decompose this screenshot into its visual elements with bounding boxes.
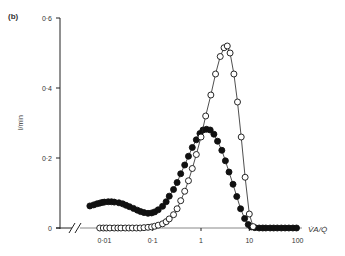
open-circle-marker (189, 166, 195, 172)
filled-circle-marker (226, 169, 232, 175)
filled-circle-marker (222, 158, 228, 164)
open-circle-marker (242, 174, 248, 180)
open-circle-marker (217, 54, 223, 60)
filled-circle-marker (163, 199, 169, 205)
open-circle-marker (250, 224, 256, 230)
filled-circle-marker (178, 171, 184, 177)
x-tick-label: 10 (245, 237, 253, 244)
open-circle-marker (208, 92, 214, 98)
filled-circle-marker (189, 145, 195, 151)
x-tick-label: 1 (199, 237, 203, 244)
series-line (90, 129, 297, 228)
y-tick-label: 0·4 (42, 85, 52, 92)
open-circle-marker (238, 134, 244, 140)
chart: (b) 00·20·40·60·010·1110100 l/min V̇A/Q̇ (0, 0, 345, 256)
filled-circle-marker (215, 138, 221, 144)
filled-circle-marker (230, 181, 236, 187)
open-circle-marker (224, 43, 230, 49)
filled-circle-marker (171, 187, 177, 193)
filled-circle-marker (174, 180, 180, 186)
open-circle-marker (171, 212, 177, 218)
filled-circle-marker (182, 162, 188, 168)
filled-circle-marker (219, 147, 225, 153)
open-circle-marker (213, 71, 219, 77)
open-circle-marker (198, 134, 204, 140)
filled-circle-marker (166, 193, 172, 199)
open-circle-marker (174, 206, 180, 212)
filled-circle-marker (242, 216, 248, 222)
y-tick-label: 0·2 (42, 155, 52, 162)
x-tick-label: 0·1 (148, 237, 158, 244)
panel-label: (b) (8, 12, 19, 21)
axes: 00·20·40·60·010·1110100 (42, 15, 304, 245)
open-circle-marker (227, 50, 233, 56)
open-circle-marker (246, 211, 252, 217)
filled-circle-marker (211, 131, 217, 137)
open-circle-marker (193, 152, 199, 158)
data-series (87, 43, 300, 231)
x-axis-label: V̇A/Q̇ (308, 225, 327, 234)
open-circle-marker (182, 188, 188, 194)
x-tick-label: 100 (292, 237, 304, 244)
y-tick-label: 0 (48, 225, 52, 232)
open-circle-marker (235, 99, 241, 105)
y-tick-label: 0·6 (42, 15, 52, 22)
filled-circle-marker (238, 206, 244, 212)
open-circle-marker (203, 113, 209, 119)
open-circle-marker (178, 198, 184, 204)
y-axis-label: l/min (17, 115, 24, 130)
filled-circle-marker (294, 225, 300, 231)
x-tick-label: 0·01 (97, 237, 111, 244)
open-circle-marker (231, 71, 237, 77)
open-circle-marker (185, 178, 191, 184)
filled-circle-marker (234, 194, 240, 200)
filled-circle-marker (185, 153, 191, 159)
